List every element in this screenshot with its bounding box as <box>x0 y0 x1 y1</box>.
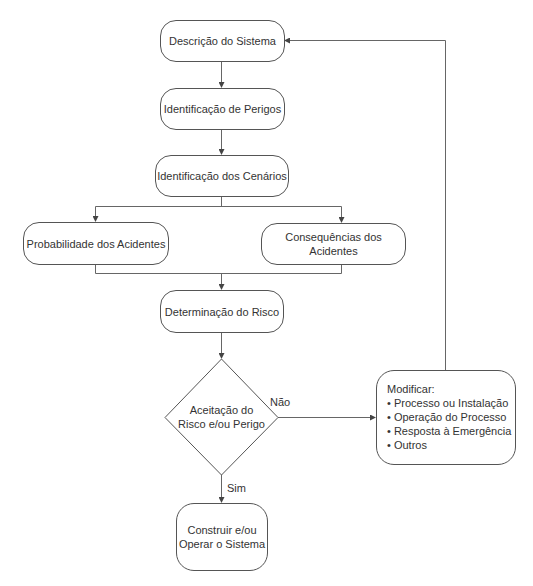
modify-item: • Resposta à Emergência <box>387 424 511 438</box>
node-system-description: Descrição do Sistema <box>160 20 285 62</box>
node-build-operate: Construir e/ou Operar o Sistema <box>176 503 268 571</box>
node-label: Identificação dos Cenários <box>157 169 287 183</box>
node-label: Determinação do Risco <box>165 305 279 319</box>
decision-label: Aceitação do Risco e/ou Perigo <box>171 403 272 431</box>
modify-heading: Modificar: <box>387 382 435 396</box>
node-label: Probabilidade dos Acidentes <box>27 237 166 251</box>
node-label: Descrição do Sistema <box>169 34 276 48</box>
node-accident-consequences: Consequências dos Acidentes <box>261 223 406 265</box>
node-risk-determination: Determinação do Risco <box>160 290 284 333</box>
modify-item: • Operação do Processo <box>387 410 506 424</box>
edge-label-no: Não <box>270 396 290 409</box>
node-modify: Modificar: • Processo ou Instalação • Op… <box>376 370 516 465</box>
node-hazard-identification: Identificação de Perigos <box>160 88 285 130</box>
node-label: Consequências dos Acidentes <box>262 230 405 258</box>
modify-item: • Outros <box>387 438 427 452</box>
node-accident-probability: Probabilidade dos Acidentes <box>23 222 169 265</box>
node-scenario-identification: Identificação dos Cenários <box>155 155 289 197</box>
node-label: Identificação de Perigos <box>164 102 281 116</box>
modify-item: • Processo ou Instalação <box>387 396 508 410</box>
node-label: Construir e/ou Operar o Sistema <box>179 523 265 551</box>
flowchart: Descrição do Sistema Identificação de Pe… <box>0 0 533 586</box>
edge-label-yes: Sim <box>227 482 246 495</box>
